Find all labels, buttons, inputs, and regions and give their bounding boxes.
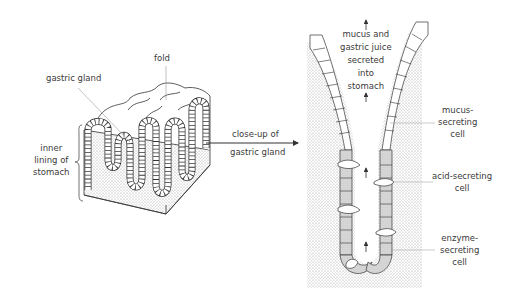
stomach-lining-block <box>75 83 210 214</box>
enzyme-cell-label: enzyme- secreting cell <box>440 232 479 268</box>
mucus-cell-label: mucus- secreting cell <box>438 104 477 140</box>
inner-lining-label: inner lining of stomach <box>33 142 70 178</box>
secretion-line-1: mucus and <box>340 28 392 41</box>
close-up-label-bottom: gastric gland <box>230 146 285 158</box>
fold-label: fold <box>154 52 170 64</box>
mucus-line-2: secreting <box>438 116 477 128</box>
inner-lining-line-3: stomach <box>33 166 70 178</box>
secretion-label: mucus and gastric juice secreted into st… <box>340 28 392 93</box>
acid-line-1: acid-secreting <box>432 170 492 182</box>
inner-lining-line-1: inner <box>33 142 70 154</box>
secretion-line-3: secreted <box>340 54 392 67</box>
secretion-line-5: stomach <box>340 80 392 93</box>
enzyme-line-2: secreting <box>440 244 479 256</box>
mucus-line-1: mucus- <box>438 104 477 116</box>
secretion-line-4: into <box>340 67 392 80</box>
enzyme-line-3: cell <box>440 256 479 268</box>
close-up-label-top: close-up of <box>232 128 279 140</box>
gastric-gland-label: gastric gland <box>46 72 101 84</box>
enzyme-line-1: enzyme- <box>440 232 479 244</box>
inner-lining-line-2: lining of <box>33 154 70 166</box>
mucus-line-3: cell <box>438 128 477 140</box>
secretion-line-2: gastric juice <box>340 41 392 54</box>
acid-line-2: cell <box>432 182 492 194</box>
acid-cell-label: acid-secreting cell <box>432 170 492 194</box>
